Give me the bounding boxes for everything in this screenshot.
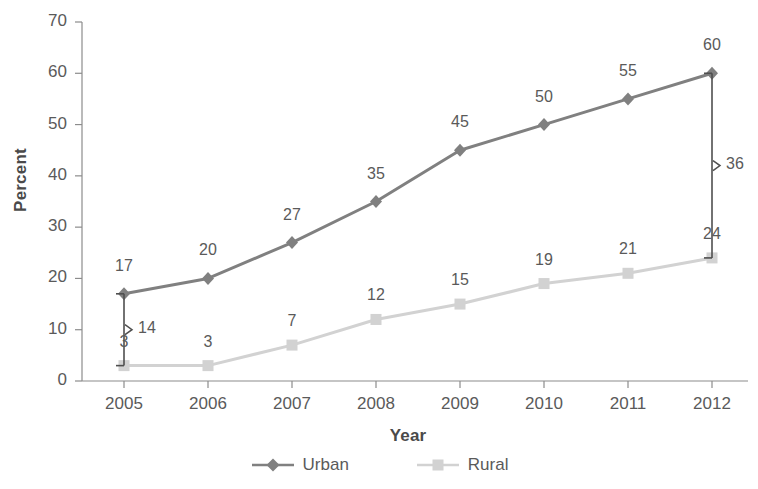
x-axis-tick-label: 2007: [252, 394, 332, 414]
y-axis-tick-label: 70: [27, 11, 67, 31]
data-label-rural-2007: 7: [269, 312, 315, 330]
data-label-rural-2012: 24: [689, 225, 735, 243]
data-label-rural-2011: 21: [605, 240, 651, 258]
legend-item-urban[interactable]: Urban: [250, 455, 349, 475]
data-label-urban-2008: 35: [353, 165, 399, 183]
y-axis-tick-label: 0: [27, 370, 67, 390]
data-label-urban-2009: 45: [437, 113, 483, 131]
data-label-urban-2006: 20: [185, 241, 231, 259]
x-axis-tick-label: 2005: [84, 394, 164, 414]
legend-marker-diamond-icon: [250, 456, 296, 474]
marker-diamond: [370, 195, 382, 208]
legend-item-rural[interactable]: Rural: [415, 455, 509, 475]
data-label-urban-2010: 50: [521, 88, 567, 106]
x-axis-tick-label: 2009: [420, 394, 500, 414]
y-axis-tick-label: 60: [27, 62, 67, 82]
marker-square: [287, 340, 298, 351]
data-label-rural-2009: 15: [437, 271, 483, 289]
marker-diamond: [538, 118, 550, 131]
marker-diamond: [622, 92, 634, 105]
marker-square: [539, 278, 550, 289]
x-axis-tick-label: 2006: [168, 394, 248, 414]
data-label-rural-2010: 19: [521, 251, 567, 269]
marker-diamond: [286, 236, 298, 249]
y-axis-tick-label: 40: [27, 165, 67, 185]
series-line-urban: [124, 73, 712, 294]
y-axis-tick-label: 20: [27, 267, 67, 287]
marker-square: [455, 299, 466, 310]
chart-legend: Urban Rural: [0, 455, 758, 475]
marker-square: [623, 268, 634, 279]
data-label-rural-2008: 12: [353, 286, 399, 304]
x-axis-title: Year: [348, 426, 468, 446]
data-label-urban-2005: 17: [101, 257, 147, 275]
gap-label-2005: 14: [138, 319, 156, 337]
legend-marker-square-icon: [415, 456, 461, 474]
y-axis-tick-label: 50: [27, 114, 67, 134]
x-axis-tick-label: 2012: [672, 394, 752, 414]
marker-square: [203, 360, 214, 371]
legend-label-rural: Rural: [468, 455, 509, 475]
x-axis-tick-label: 2010: [504, 394, 584, 414]
marker-diamond: [202, 272, 214, 285]
x-axis-tick-label: 2008: [336, 394, 416, 414]
data-label-rural-2006: 3: [185, 333, 231, 351]
y-axis-tick-label: 10: [27, 319, 67, 339]
x-axis-tick-label: 2011: [588, 394, 668, 414]
x-axis-ticks: [124, 381, 712, 388]
gap-bracket-arrow: [713, 161, 720, 171]
data-label-urban-2007: 27: [269, 206, 315, 224]
data-label-urban-2012: 60: [689, 36, 735, 54]
marker-square: [371, 314, 382, 325]
data-label-urban-2011: 55: [605, 62, 651, 80]
y-axis-tick-label: 30: [27, 216, 67, 236]
y-axis-ticks: [75, 22, 82, 381]
gap-label-2012: 36: [726, 155, 744, 173]
legend-label-urban: Urban: [303, 455, 349, 475]
series-group: [118, 67, 718, 371]
marker-diamond: [454, 144, 466, 157]
gap-annotation-group: [116, 73, 720, 365]
line-chart: Percent Year 010203040506070 20052006200…: [0, 0, 758, 489]
